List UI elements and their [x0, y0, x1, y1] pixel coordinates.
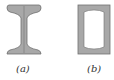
box-inner-void — [84, 10, 104, 49]
panel-b-label: (b) — [87, 63, 101, 74]
panel-a-label: (a) — [16, 63, 30, 74]
i-beam-figure — [0, 0, 57, 60]
box-section-figure — [57, 0, 114, 60]
